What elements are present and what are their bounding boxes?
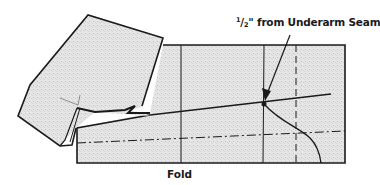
- fraction-numerator: 1: [236, 16, 240, 24]
- underarm-point-marker: [262, 102, 267, 107]
- seam-text: " from Underarm Seam: [248, 16, 380, 28]
- fold-label: Fold: [167, 168, 192, 180]
- underarm-seam-label: 1/2" from Underarm Seam: [236, 16, 380, 29]
